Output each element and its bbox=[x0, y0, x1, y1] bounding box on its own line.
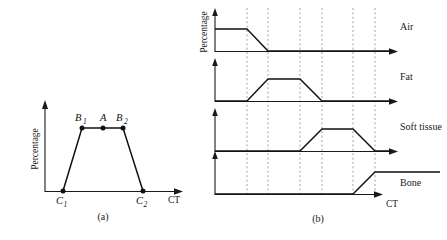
panel-a-point-a bbox=[101, 126, 106, 131]
panel-a-point-c2 bbox=[141, 189, 146, 194]
panel-a-point-b2 bbox=[121, 126, 126, 131]
panel-b-curve-air bbox=[215, 29, 392, 51]
panel-a-point-c1 bbox=[61, 189, 66, 194]
panel-a-label-b2-letter: B bbox=[116, 112, 123, 123]
panel-b-row-bone: Bone bbox=[212, 151, 440, 198]
panel-b-label-bone: Bone bbox=[400, 177, 422, 188]
panel-a-x-axis-label: CT bbox=[168, 195, 180, 205]
ct-membership-figure: B 1 A B 2 C 1 C 2 Percentage CT (a) bbox=[0, 0, 447, 240]
panel-a-label-c1: C 1 bbox=[56, 195, 67, 209]
panel-a-label-a: A bbox=[99, 112, 107, 123]
panel-b-caption: (b) bbox=[312, 213, 324, 225]
panel-a-point-b1 bbox=[80, 126, 85, 131]
panel-a-label-b1: B 1 bbox=[75, 112, 87, 126]
panel-a-membership-curve bbox=[63, 128, 143, 191]
panel-a-label-c1-subscript: 1 bbox=[64, 200, 68, 209]
panel-a-y-axis-label: Percentage bbox=[30, 128, 40, 170]
panel-b-row-fat: Fat bbox=[212, 58, 413, 105]
panel-b-label-fat: Fat bbox=[400, 71, 413, 82]
panel-a-label-c2-subscript: 2 bbox=[144, 200, 148, 209]
panel-a-label-b1-letter: B bbox=[75, 112, 82, 123]
panel-b-y-axis-label: Percentage bbox=[199, 11, 209, 53]
panel-b: Air Fat Soft tissue Bone bbox=[199, 8, 443, 225]
panel-b-label-soft-tissue: Soft tissue bbox=[400, 121, 443, 132]
panel-a-y-axis bbox=[42, 100, 48, 192]
panel-a-label-b2: B 2 bbox=[116, 112, 128, 126]
panel-a: B 1 A B 2 C 1 C 2 Percentage CT (a) bbox=[30, 100, 183, 223]
panel-a-label-b1-subscript: 1 bbox=[83, 117, 87, 126]
panel-b-label-air: Air bbox=[400, 21, 414, 32]
panel-a-caption: (a) bbox=[97, 211, 108, 223]
panel-a-label-b2-subscript: 2 bbox=[124, 117, 128, 126]
panel-b-curve-fat bbox=[215, 79, 392, 101]
panel-b-x-axis-label: CT bbox=[386, 199, 398, 209]
panel-b-row-air: Air bbox=[212, 8, 414, 55]
panel-a-label-c2: C 2 bbox=[136, 195, 148, 209]
panel-b-curve-soft-tissue bbox=[215, 129, 392, 151]
panel-a-x-axis bbox=[45, 188, 183, 194]
